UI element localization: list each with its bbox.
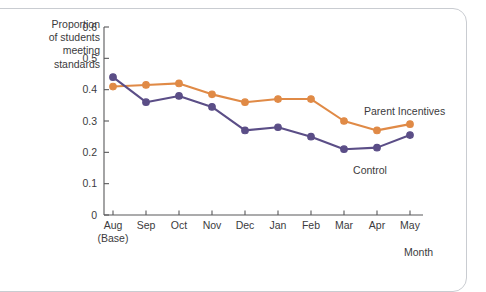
data-point-marker <box>374 127 381 134</box>
series-label-control: Control <box>353 164 387 176</box>
data-point-marker <box>407 121 414 128</box>
data-point-marker <box>308 96 315 103</box>
y-tick-label: 0.3 <box>82 115 97 127</box>
data-point-marker <box>143 99 150 106</box>
y-tick-label: 0.1 <box>82 177 97 189</box>
data-point-marker <box>110 83 117 90</box>
data-point-marker <box>209 91 216 98</box>
data-point-marker <box>176 80 183 87</box>
x-tick-sublabel: (Base) <box>98 232 129 244</box>
data-point-marker <box>209 104 216 111</box>
data-point-marker <box>176 93 183 100</box>
y-tick-label: 0 <box>91 209 97 221</box>
x-tick-label: Sep <box>137 219 156 231</box>
data-point-marker <box>110 74 117 81</box>
data-point-marker <box>275 96 282 103</box>
data-point-marker <box>341 146 348 153</box>
y-axis-title-line-2: of students <box>14 31 100 44</box>
y-tick-label: 0.4 <box>82 83 97 95</box>
data-point-marker <box>242 99 249 106</box>
x-axis: Aug(Base)SepOctNovDecJanFebMarAprMay <box>98 211 423 245</box>
x-tick-label: Oct <box>171 219 187 231</box>
x-tick-label: Dec <box>236 219 255 231</box>
x-axis-title: Month <box>404 246 433 258</box>
series-label-parent-incentives: Parent Incentives <box>364 105 445 117</box>
series-annotations: Parent IncentivesControl <box>353 105 445 176</box>
y-axis-title-line-4: standards <box>14 58 100 71</box>
y-tick-label: 0.2 <box>82 146 97 158</box>
y-axis-title-line-1: Proportion <box>14 18 100 31</box>
y-axis-title: Proportion of students meeting standards <box>14 18 100 71</box>
data-point-marker <box>275 124 282 131</box>
data-point-marker <box>308 133 315 140</box>
x-tick-label: Nov <box>203 219 222 231</box>
x-tick-label: Feb <box>302 219 320 231</box>
y-axis-title-line-3: meeting <box>14 44 100 57</box>
data-point-marker <box>242 127 249 134</box>
data-point-marker <box>143 82 150 89</box>
data-point-marker <box>374 144 381 151</box>
data-point-marker <box>407 132 414 139</box>
data-point-marker <box>341 118 348 125</box>
x-tick-label: Mar <box>335 219 354 231</box>
x-tick-label: Aug <box>104 219 123 231</box>
x-tick-label: Jan <box>270 219 287 231</box>
x-tick-label: May <box>400 219 421 231</box>
x-tick-label: Apr <box>369 219 386 231</box>
